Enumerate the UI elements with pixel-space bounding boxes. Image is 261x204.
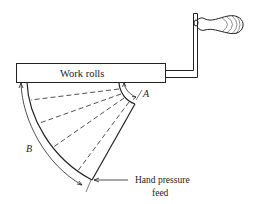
feed-arrow [94, 178, 128, 182]
inner-arc [119, 83, 135, 104]
crank-handle-icon [194, 16, 243, 34]
roll-bending-diagram: Work rolls A B Hand pressure feed [0, 0, 261, 204]
feed-label-line1: Hand pressure [135, 175, 190, 185]
work-rolls-label: Work rolls [60, 68, 104, 79]
feed-label-line2: feed [152, 188, 169, 198]
arc-b-label: B [26, 143, 32, 154]
arc-b-indicator [19, 83, 91, 192]
radial-lines [31, 89, 129, 172]
crank-arm [166, 14, 198, 78]
angle-a-label: A [142, 88, 150, 99]
sector-edge [92, 104, 135, 180]
